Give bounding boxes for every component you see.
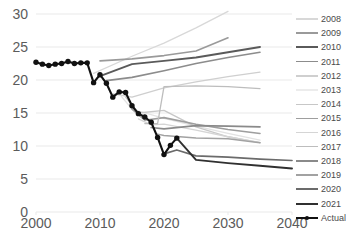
legend-label: 2009 — [318, 28, 341, 38]
legend-item-actual[interactable]: Actual — [296, 211, 344, 225]
legend-swatch — [296, 184, 318, 194]
legend-swatch — [296, 28, 318, 38]
legend-label: 2010 — [318, 42, 341, 52]
chart-legend: 2008200920102011201220132014201520162017… — [296, 12, 344, 225]
legend-item-2008[interactable]: 2008 — [296, 12, 344, 26]
legend-label: 2020 — [318, 184, 341, 194]
data-point-marker — [136, 111, 141, 116]
legend-label: 2008 — [318, 14, 341, 24]
legend-swatch — [296, 170, 318, 180]
legend-item-2014[interactable]: 2014 — [296, 97, 344, 111]
legend-label: 2013 — [318, 85, 341, 95]
data-point-marker — [129, 103, 134, 108]
data-point-marker — [46, 63, 51, 68]
data-point-marker — [97, 72, 102, 77]
legend-item-2016[interactable]: 2016 — [296, 126, 344, 140]
data-point-marker — [91, 80, 96, 85]
series-line-2010 — [100, 47, 260, 76]
legend-swatch — [296, 57, 318, 67]
data-point-marker — [65, 59, 70, 64]
legend-item-2015[interactable]: 2015 — [296, 111, 344, 125]
data-point-marker — [174, 135, 179, 140]
legend-item-2020[interactable]: 2020 — [296, 182, 344, 196]
y-axis-tick-label: 20 — [2, 73, 28, 87]
legend-swatch — [296, 99, 318, 109]
y-axis-tick-label: 25 — [2, 40, 28, 54]
legend-swatch — [296, 85, 318, 95]
y-axis-tick-label: 10 — [2, 139, 28, 153]
data-point-marker — [168, 143, 173, 148]
legend-marker-icon — [305, 216, 309, 220]
legend-swatch — [296, 128, 318, 138]
legend-swatch — [296, 199, 318, 209]
legend-label: 2016 — [318, 128, 341, 138]
data-point-marker — [72, 61, 77, 66]
data-point-marker — [40, 61, 45, 66]
x-axis-tick-label: 2010 — [78, 216, 122, 230]
legend-label: 2014 — [318, 99, 341, 109]
legend-item-2013[interactable]: 2013 — [296, 83, 344, 97]
y-axis-tick-label: 5 — [2, 172, 28, 186]
legend-item-2019[interactable]: 2019 — [296, 168, 344, 182]
legend-item-2009[interactable]: 2009 — [296, 26, 344, 40]
series-line-2021 — [177, 138, 292, 168]
series-line-2009 — [100, 38, 228, 61]
legend-swatch — [296, 213, 318, 223]
data-point-marker — [123, 90, 128, 95]
data-point-marker — [33, 59, 38, 64]
data-point-marker — [104, 81, 109, 86]
data-point-marker — [149, 120, 154, 125]
legend-label: 2011 — [318, 57, 340, 67]
legend-label: 2019 — [318, 170, 341, 180]
legend-item-2012[interactable]: 2012 — [296, 69, 344, 83]
series-line-2020 — [164, 150, 292, 161]
data-point-marker — [59, 61, 64, 66]
data-point-marker — [142, 114, 147, 119]
legend-item-2017[interactable]: 2017 — [296, 140, 344, 154]
legend-swatch — [296, 42, 318, 52]
legend-label: Actual — [318, 213, 346, 223]
series-line-2011 — [106, 52, 260, 80]
x-axis-tick-label: 2000 — [14, 216, 58, 230]
legend-swatch — [296, 113, 318, 123]
gridlines — [36, 14, 292, 215]
legend-swatch — [296, 142, 318, 152]
series-line-actual — [36, 62, 177, 155]
legend-item-2010[interactable]: 2010 — [296, 40, 344, 54]
legend-item-2011[interactable]: 2011 — [296, 55, 344, 69]
legend-label: 2018 — [318, 156, 341, 166]
y-axis-tick-label: 30 — [2, 7, 28, 21]
legend-swatch — [296, 156, 318, 166]
legend-item-2021[interactable]: 2021 — [296, 196, 344, 210]
x-axis-tick-label: 2020 — [142, 216, 186, 230]
legend-swatch — [296, 71, 318, 81]
legend-swatch — [296, 14, 318, 24]
series-group — [33, 11, 292, 168]
legend-item-2018[interactable]: 2018 — [296, 154, 344, 168]
data-point-marker — [53, 61, 58, 66]
data-point-marker — [117, 89, 122, 94]
series-line-2008 — [94, 11, 228, 73]
data-point-marker — [78, 60, 83, 65]
legend-label: 2017 — [318, 142, 341, 152]
y-axis-tick-label: 15 — [2, 106, 28, 120]
data-point-marker — [85, 60, 90, 65]
data-point-marker — [110, 94, 115, 99]
data-point-marker — [155, 135, 160, 140]
x-axis-tick-label: 2030 — [206, 216, 250, 230]
series-line-2012 — [113, 72, 260, 97]
data-point-marker — [161, 152, 166, 157]
legend-label: 2015 — [318, 113, 341, 123]
legend-label: 2012 — [318, 71, 341, 81]
legend-label: 2021 — [318, 199, 341, 209]
